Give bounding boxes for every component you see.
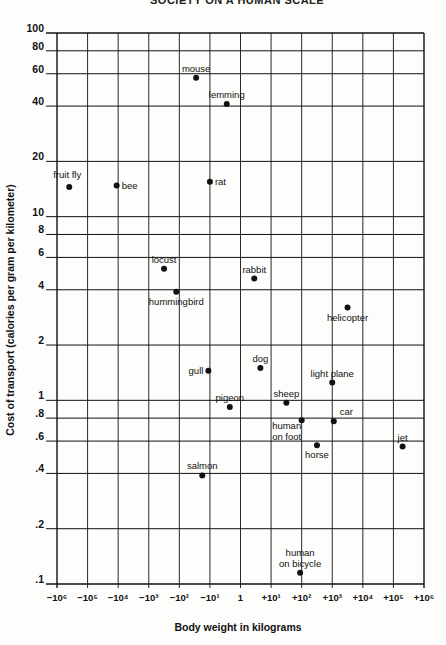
data-point: light plane — [311, 368, 354, 386]
x-tick-label: −10⁴ — [108, 592, 129, 603]
y-tick-label: 4 — [38, 279, 44, 291]
data-point: humanon bicycle — [279, 547, 321, 576]
point-marker — [193, 75, 199, 81]
x-tick-label: +10³ — [323, 592, 342, 603]
point-label: humanon bicycle — [279, 547, 321, 569]
y-tick-label: 1 — [38, 389, 44, 401]
y-tick-label: 20 — [32, 150, 44, 162]
point-marker — [345, 305, 351, 311]
chart-grid — [46, 33, 424, 588]
point-marker — [314, 442, 320, 448]
x-tick-label: −10¹ — [200, 592, 219, 603]
point-marker — [331, 418, 337, 424]
data-point: bee — [114, 180, 138, 191]
data-point: helicopter — [327, 305, 368, 323]
x-tick-label: −10² — [170, 592, 189, 603]
point-label: car — [340, 406, 353, 417]
y-tick-label: 100 — [26, 22, 44, 34]
data-point: jet — [397, 432, 408, 450]
data-point: rabbit — [242, 264, 266, 282]
point-label: mouse — [182, 63, 211, 74]
data-points: fruit flybeemouselemmingratlocusthumming… — [53, 63, 408, 576]
point-marker — [205, 368, 211, 374]
data-point: dog — [252, 353, 268, 371]
point-label: light plane — [311, 368, 354, 379]
x-tick-label: +10¹ — [261, 592, 280, 603]
x-tick-label: +10⁵ — [383, 592, 404, 603]
data-point: pigeon — [216, 392, 245, 410]
x-axis-ticks: −10⁶−10⁵−10⁴−10³−10²−10¹1+10¹+10²+10³+10… — [47, 592, 435, 603]
y-tick-label: 2 — [38, 334, 44, 346]
data-point: hummingbird — [149, 289, 204, 307]
point-label: rabbit — [242, 264, 266, 275]
point-marker — [400, 444, 406, 450]
y-axis-ticks: 100806040201086421.8.6.4.2.1 — [26, 22, 44, 585]
point-marker — [329, 380, 335, 386]
point-marker — [283, 400, 289, 406]
x-tick-label: +10⁶ — [414, 592, 435, 603]
point-marker — [114, 182, 120, 188]
point-marker — [224, 101, 230, 107]
point-marker — [251, 276, 257, 282]
point-label: dog — [252, 353, 268, 364]
data-point: gull — [189, 365, 212, 376]
x-tick-label: +10² — [292, 592, 311, 603]
point-label: lemming — [209, 89, 245, 100]
data-point: horse — [305, 442, 329, 460]
point-marker — [207, 179, 213, 185]
y-tick-label: 40 — [32, 95, 44, 107]
point-label: gull — [189, 365, 204, 376]
data-point: car — [331, 406, 353, 424]
data-point: sheep — [273, 388, 299, 406]
y-tick-label: 6 — [38, 246, 44, 258]
point-marker — [199, 472, 205, 478]
point-label: rat — [215, 176, 226, 187]
point-label: helicopter — [327, 312, 368, 323]
x-tick-label: +10⁴ — [352, 592, 373, 603]
y-tick-label: 8 — [38, 223, 44, 235]
y-tick-label: 80 — [32, 40, 44, 52]
y-axis-label: Cost of transport (calories per gram per… — [2, 150, 18, 470]
point-marker — [173, 289, 179, 295]
y-tick-label: 10 — [32, 206, 44, 218]
point-label: humanon foot — [272, 420, 301, 442]
y-tick-label: .8 — [35, 407, 44, 419]
x-tick-label: −10³ — [139, 592, 158, 603]
x-tick-label: 1 — [238, 592, 244, 603]
x-axis-label: Body weight in kilograms — [0, 621, 446, 633]
point-label: jet — [397, 432, 408, 443]
point-marker — [161, 266, 167, 272]
y-tick-label: .1 — [35, 573, 44, 585]
point-label: fruit fly — [53, 169, 81, 180]
point-label: hummingbird — [149, 296, 204, 307]
data-point: salmon — [187, 460, 218, 478]
y-tick-label: .2 — [35, 518, 44, 530]
y-tick-label: .4 — [35, 462, 44, 474]
y-tick-label: .6 — [35, 430, 44, 442]
data-point: locust — [152, 254, 177, 272]
scatter-chart: 100806040201086421.8.6.4.2.1 −10⁶−10⁵−10… — [0, 0, 446, 645]
point-marker — [227, 404, 233, 410]
data-point: mouse — [182, 63, 211, 81]
data-point: lemming — [209, 89, 245, 107]
y-axis-label-text: Cost of transport (calories per gram per… — [4, 184, 16, 435]
point-marker — [66, 184, 72, 190]
y-tick-label: 60 — [32, 63, 44, 75]
point-marker — [257, 365, 263, 371]
point-label: pigeon — [216, 392, 245, 403]
x-tick-label: −10⁶ — [47, 592, 68, 603]
point-label: salmon — [187, 460, 218, 471]
data-point: humanon foot — [272, 417, 305, 442]
point-label: locust — [152, 254, 177, 265]
x-tick-label: −10⁵ — [77, 592, 98, 603]
point-label: sheep — [273, 388, 299, 399]
point-marker — [297, 570, 303, 576]
point-label: bee — [122, 180, 138, 191]
point-label: horse — [305, 449, 329, 460]
